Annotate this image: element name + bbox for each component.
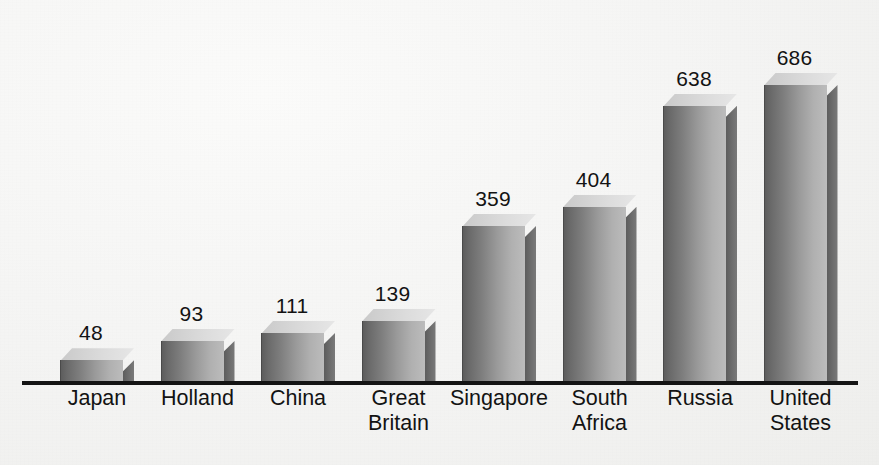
bar-side-face [826,85,838,381]
bar-front-face [764,85,827,381]
bar-value-label: 139 [342,283,444,304]
bar-side-face [424,321,436,381]
bar-5 [462,214,536,381]
bar-value-label: 638 [643,68,745,89]
plot-area: 48Japan93Holland111China139Great Britain… [0,0,879,465]
bar-side-face [725,106,737,381]
bar-front-face [261,333,324,381]
bar-1 [60,348,134,381]
bar-value-label: 111 [241,295,343,316]
bar-side-face [625,207,637,381]
bar-6 [563,195,637,381]
bar-front-face [663,106,726,381]
category-label: United States [741,386,861,436]
bar-front-face [362,321,425,381]
bar-value-label: 359 [442,188,544,209]
bar-3 [261,321,335,381]
bar-8 [764,73,838,381]
bar-side-face [223,341,235,381]
bar-front-face [462,226,525,381]
bar-side-face [524,226,536,381]
bar-2 [161,329,235,381]
bar-front-face [563,207,626,381]
bar-side-face [323,333,335,381]
bar-value-label: 93 [141,303,243,324]
bar-side-face [122,360,134,381]
bar-front-face [161,341,224,381]
bar-front-face [60,360,123,381]
x-axis-baseline [22,381,858,385]
bar-chart: 48Japan93Holland111China139Great Britain… [0,0,879,465]
bar-value-label: 404 [543,169,645,190]
bar-value-label: 48 [40,322,142,343]
bar-7 [663,94,737,381]
bar-4 [362,309,436,381]
bar-value-label: 686 [744,47,846,68]
